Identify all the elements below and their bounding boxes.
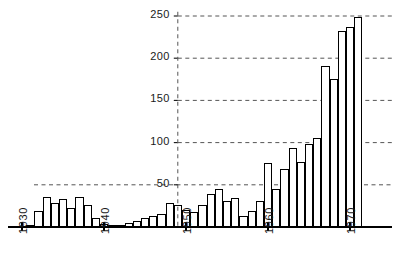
bar-chart-figure: 50100150200250 19301940195019601970 (0, 0, 397, 261)
bar-1963 (289, 149, 296, 227)
y-axis-label-250: 250 (132, 8, 170, 20)
bar-1946 (150, 216, 157, 227)
bar-1966 (314, 138, 321, 227)
bar-1947 (158, 214, 165, 227)
x-axis-label-1940: 1940 (99, 207, 111, 234)
bar-1970 (346, 28, 353, 227)
bar-1955 (223, 202, 230, 227)
bar-1935 (59, 200, 66, 227)
y-axis-label-150: 150 (132, 92, 170, 104)
y-axis-label-100: 100 (132, 135, 170, 147)
bar-1945 (141, 219, 148, 227)
bar-1968 (330, 79, 337, 227)
bar-1953 (207, 195, 214, 227)
bar-1938 (84, 206, 91, 227)
bar-1933 (43, 197, 50, 227)
y-axis-label-200: 200 (132, 50, 170, 62)
bar-1944 (133, 222, 140, 227)
bar-1956 (232, 198, 239, 227)
bar-1934 (51, 203, 58, 227)
chart-plot-area (0, 0, 397, 261)
bar-1971 (355, 18, 362, 227)
bar-1958 (248, 212, 255, 227)
bars-group (18, 18, 361, 227)
bar-1948 (166, 203, 173, 227)
bar-1964 (297, 162, 304, 227)
y-axis-label-50: 50 (132, 177, 170, 189)
bar-1952 (199, 206, 206, 227)
bar-1967 (322, 67, 329, 227)
bar-1965 (305, 144, 312, 227)
x-axis-label-1950: 1950 (181, 207, 193, 234)
x-axis-label-1930: 1930 (17, 207, 29, 234)
bar-1932 (35, 212, 42, 227)
bar-1936 (68, 208, 75, 227)
bar-1937 (76, 197, 83, 227)
bar-1954 (215, 189, 222, 227)
bar-1969 (338, 31, 345, 227)
bar-1957 (240, 217, 247, 227)
bar-1962 (281, 170, 288, 227)
x-axis-label-1970: 1970 (345, 207, 357, 234)
x-axis-label-1960: 1960 (263, 207, 275, 234)
